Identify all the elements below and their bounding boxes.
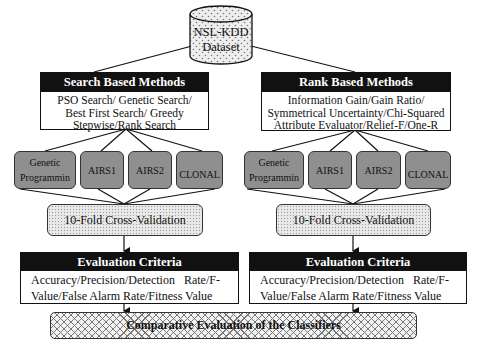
search-methods-line: Stepwise/Rank Search: [41, 119, 208, 132]
classifier-airs2-right: AIRS2: [356, 151, 401, 189]
evaluation-line: Value/False Alarm Rate/Fitness Value: [31, 288, 230, 304]
dataset-node: NSL-KDD Dataset: [190, 25, 252, 55]
classifier-label: Genetic: [258, 155, 289, 170]
search-methods-box: Search Based Methods PSO Search/ Genetic…: [40, 72, 209, 130]
comparative-evaluation-label: Comparative Evaluation of the Classifier…: [126, 318, 341, 333]
classifier-genetic-programming-left: Genetic Programmin: [14, 151, 76, 189]
cross-validation-label: 10-Fold Cross-Validation: [293, 213, 415, 228]
dataset-subtitle: Dataset: [190, 40, 252, 55]
classifier-airs1-right: AIRS1: [308, 151, 352, 189]
evaluation-title: Evaluation Criteria: [21, 253, 238, 271]
evaluation-metrics: Accuracy/Precision/Detection Rate/F- Val…: [21, 271, 238, 304]
classifier-label: AIRS1: [316, 163, 344, 178]
rank-methods-box: Rank Based Methods Information Gain/Gain…: [261, 72, 451, 131]
classifier-genetic-programming-right: Genetic Programmin: [244, 151, 304, 189]
evaluation-title: Evaluation Criteria: [250, 253, 466, 271]
rank-methods-title: Rank Based Methods: [262, 73, 450, 92]
classifier-label: Programmin: [20, 170, 70, 185]
cross-validation-right: 10-Fold Cross-Validation: [276, 204, 431, 236]
classifier-airs1-left: AIRS1: [80, 151, 124, 189]
rank-methods-line: Symmetrical Uncertainty/Chi-Squared: [262, 107, 450, 120]
classifier-label: Programmin: [249, 170, 299, 185]
search-methods-line: PSO Search/ Genetic Search/: [41, 94, 208, 107]
evaluation-line: Accuracy/Precision/Detection Rate/F-: [260, 272, 458, 288]
classifier-label: AIRS1: [88, 163, 116, 178]
search-methods-line: Best First Search/ Greedy: [41, 107, 208, 120]
classifier-clonal-left: CLONAL: [176, 151, 223, 189]
classifier-airs2-left: AIRS2: [128, 151, 172, 189]
comparative-evaluation-box: Comparative Evaluation of the Classifier…: [50, 312, 417, 339]
cross-validation-left: 10-Fold Cross-Validation: [47, 204, 203, 236]
classifier-label: CLONAL: [408, 167, 449, 182]
evaluation-criteria-left: Evaluation Criteria Accuracy/Precision/D…: [20, 252, 239, 304]
search-methods-list: PSO Search/ Genetic Search/ Best First S…: [41, 92, 208, 132]
cross-validation-label: 10-Fold Cross-Validation: [64, 213, 186, 228]
evaluation-line: Accuracy/Precision/Detection Rate/F-: [31, 272, 230, 288]
classifier-label: AIRS2: [136, 163, 164, 178]
evaluation-line: Value/False Alarm Rate/Fitness Value: [260, 288, 458, 304]
classifier-label: AIRS2: [365, 163, 393, 178]
rank-methods-list: Information Gain/Gain Ratio/ Symmetrical…: [262, 92, 450, 132]
dataset-name: NSL-KDD: [190, 25, 252, 40]
evaluation-criteria-right: Evaluation Criteria Accuracy/Precision/D…: [249, 252, 467, 304]
rank-methods-line: Attribute Evaluator/Relief-F/One-R: [262, 119, 450, 132]
classifier-clonal-right: CLONAL: [405, 151, 451, 189]
search-methods-title: Search Based Methods: [41, 73, 208, 92]
classifier-label: CLONAL: [179, 167, 220, 182]
classifier-label: Genetic: [29, 155, 60, 170]
evaluation-metrics: Accuracy/Precision/Detection Rate/F- Val…: [250, 271, 466, 304]
rank-methods-line: Information Gain/Gain Ratio/: [262, 94, 450, 107]
